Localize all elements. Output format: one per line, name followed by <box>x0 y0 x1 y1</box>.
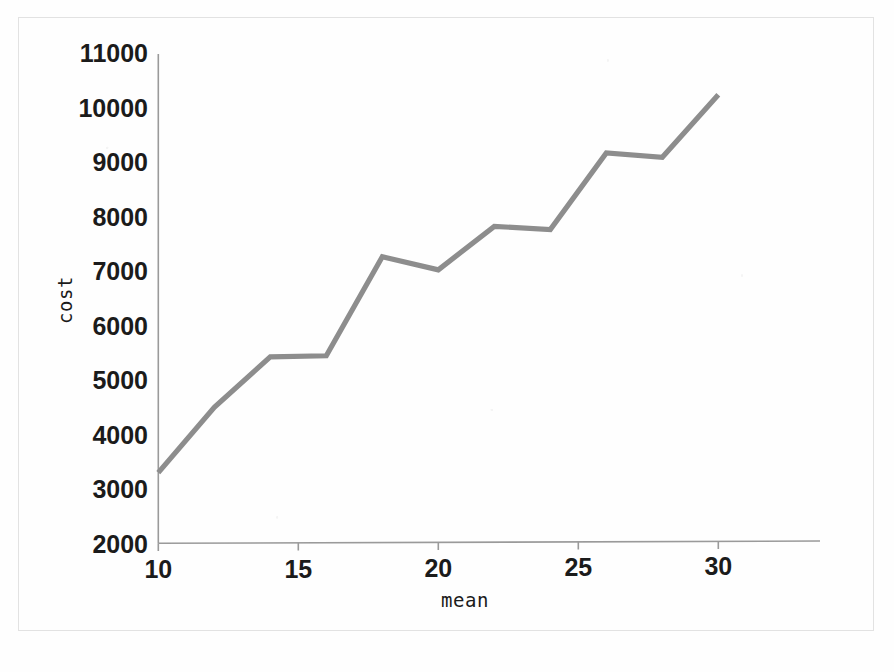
y-tick-label: 9000 <box>92 148 148 176</box>
y-tick-label: 2000 <box>92 530 148 558</box>
y-tick-label: 6000 <box>92 312 148 340</box>
y-tick-label: 10000 <box>78 94 148 122</box>
x-tick-label: 20 <box>424 554 452 582</box>
x-tick-label: 30 <box>704 552 732 580</box>
x-axis-title: mean <box>441 589 489 611</box>
y-tick-label: 3000 <box>92 475 148 503</box>
y-tick-label: 7000 <box>92 257 148 285</box>
y-tick-label: 4000 <box>92 421 148 449</box>
y-tick-label: 11000 <box>80 39 148 67</box>
x-axis-tick-labels: 10 15 20 25 30 <box>144 552 732 583</box>
cost-series-line <box>158 95 718 473</box>
x-axis-line <box>158 541 820 543</box>
x-tick-label: 10 <box>144 555 172 583</box>
y-axis-tick-labels: 11000 10000 9000 8000 7000 6000 5000 400… <box>78 39 148 558</box>
y-axis-title: cost <box>54 276 76 324</box>
line-chart: 11000 10000 9000 8000 7000 6000 5000 400… <box>0 0 894 672</box>
figure-frame: 11000 10000 9000 8000 7000 6000 5000 400… <box>0 0 894 672</box>
x-tick-label: 25 <box>564 553 592 581</box>
y-tick-label: 5000 <box>92 366 148 394</box>
y-tick-label: 8000 <box>92 203 148 231</box>
x-tick-label: 15 <box>284 555 312 583</box>
